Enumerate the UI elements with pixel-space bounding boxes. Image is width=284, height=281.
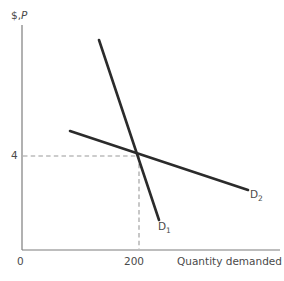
curve-label-d2: D2	[250, 189, 263, 200]
demand-curve-d2	[70, 131, 248, 190]
curve-label-d2-subscript: 2	[258, 194, 263, 203]
y-axis-label-variable: P	[21, 9, 27, 21]
origin-label: 0	[17, 256, 24, 267]
curve-label-d2-base: D	[250, 188, 258, 200]
y-axis-label: $,P	[11, 10, 27, 21]
chart-canvas	[0, 0, 284, 281]
x-tick-label-200: 200	[124, 256, 144, 267]
demand-curve-chart: $,P 4 0 200 Quantity demanded D1 D2	[0, 0, 284, 281]
curve-label-d1-subscript: 1	[166, 226, 171, 235]
curve-label-d1-base: D	[158, 220, 166, 232]
x-axis-label: Quantity demanded	[177, 256, 282, 267]
curve-label-d1: D1	[158, 221, 171, 232]
y-axis-label-currency: $,	[11, 9, 21, 21]
demand-curve-d1	[99, 40, 159, 220]
y-tick-label-4: 4	[11, 150, 18, 161]
